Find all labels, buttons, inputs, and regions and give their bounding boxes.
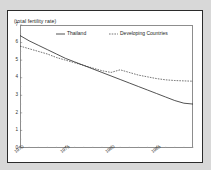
y-tick-label: 3 — [9, 93, 18, 98]
y-tick-label: 2 — [9, 111, 18, 116]
series-line-developing-countries — [20, 46, 193, 81]
series-line-thailand — [20, 36, 193, 105]
chart-card: (total fertility rate) 01234567 19701975… — [7, 10, 203, 163]
data-series-group — [20, 36, 193, 105]
chart-figure: (total fertility rate) 01234567 19701975… — [8, 11, 204, 164]
chart-canvas — [8, 11, 204, 164]
y-tick-label: 7 — [9, 23, 18, 28]
legend-item-thailand: Thailand — [67, 31, 86, 36]
y-tick-label: 6 — [9, 40, 18, 45]
y-tick-label: 4 — [9, 75, 18, 80]
y-tick-label: 5 — [9, 58, 18, 63]
legend-item-developing-countries: Developing Countries — [120, 31, 168, 36]
axis-ticks — [20, 25, 193, 148]
y-tick-label: 1 — [9, 128, 18, 133]
